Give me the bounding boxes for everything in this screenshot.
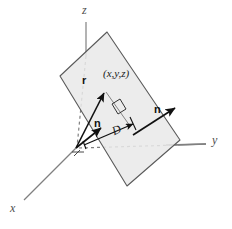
x-axis-line bbox=[24, 148, 76, 200]
position-vector-label-r: r bbox=[82, 75, 86, 86]
y-axis-overlay bbox=[178, 144, 206, 145]
x-axis bbox=[24, 148, 76, 200]
x-axis-label: x bbox=[10, 202, 15, 214]
point-coordinate-label: (x,y,z) bbox=[103, 68, 129, 79]
y-axis-label: y bbox=[212, 134, 217, 146]
normal-vector-label-plane: n bbox=[154, 104, 161, 115]
z-axis-label: z bbox=[82, 4, 87, 16]
normal-vector-label-origin: n bbox=[94, 118, 101, 129]
plane-distance-figure: z y x (x,y,z) r n n D bbox=[0, 0, 232, 229]
tilted-plane bbox=[60, 32, 180, 186]
origin-angle-mark-2 bbox=[74, 150, 80, 156]
diagram-canvas bbox=[0, 0, 232, 229]
